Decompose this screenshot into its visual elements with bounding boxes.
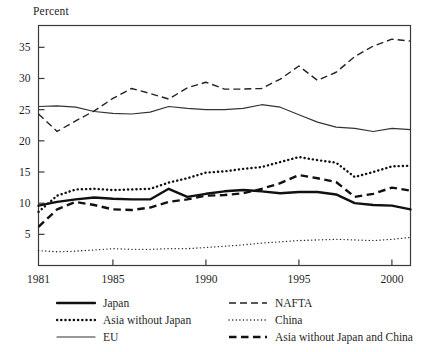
- x-tick-label: 1985: [101, 273, 124, 285]
- legend-column-right: NAFTAChinaAsia without Japan and China: [228, 294, 413, 345]
- y-tick-label: 25: [19, 104, 31, 116]
- chart-axes: [39, 26, 411, 266]
- legend-item[interactable]: EU: [56, 328, 191, 345]
- legend-line-swatch-icon: [56, 297, 96, 309]
- chart-series: [39, 39, 411, 252]
- legend-line-swatch-icon: [228, 331, 268, 343]
- x-tick-label: 1995: [287, 273, 310, 285]
- chart-ticks: [39, 47, 392, 265]
- x-tick-label: 2000: [380, 273, 403, 285]
- legend-item-label: EU: [103, 331, 118, 343]
- y-tick-label: 35: [19, 41, 31, 53]
- legend-item-label: Asia without Japan: [103, 314, 191, 326]
- legend-item-label: NAFTA: [275, 297, 312, 309]
- legend-item-label: China: [275, 314, 302, 326]
- series-line: [39, 175, 411, 227]
- legend-column-left: JapanAsia without JapanEU: [56, 294, 191, 345]
- y-tick-label: 15: [19, 166, 31, 178]
- legend-item-label: Japan: [103, 297, 129, 309]
- series-line: [39, 39, 411, 131]
- chart-tick-labels: 510152025303519811985199019952000: [19, 41, 404, 284]
- x-tick-label: 1990: [194, 273, 217, 285]
- legend-line-swatch-icon: [228, 297, 268, 309]
- series-line: [39, 237, 411, 251]
- x-tick-label: 1981: [27, 273, 50, 285]
- legend-line-swatch-icon: [56, 314, 96, 326]
- series-line: [39, 105, 411, 132]
- y-tick-label: 20: [19, 135, 31, 147]
- y-tick-label: 5: [25, 228, 31, 240]
- y-tick-label: 10: [19, 197, 31, 209]
- legend-line-swatch-icon: [56, 331, 96, 343]
- series-line: [39, 189, 411, 210]
- chart-figure: Percent 51015202530351981198519901995200…: [0, 0, 423, 352]
- legend-item-label: Asia without Japan and China: [275, 331, 413, 343]
- chart-legend: JapanAsia without JapanEU NAFTAChinaAsia…: [0, 294, 423, 352]
- legend-item[interactable]: Asia without Japan: [56, 311, 191, 328]
- legend-item[interactable]: Japan: [56, 294, 191, 311]
- legend-line-swatch-icon: [228, 314, 268, 326]
- legend-item[interactable]: NAFTA: [228, 294, 413, 311]
- y-tick-label: 30: [19, 72, 31, 84]
- legend-item[interactable]: China: [228, 311, 413, 328]
- legend-item[interactable]: Asia without Japan and China: [228, 328, 413, 345]
